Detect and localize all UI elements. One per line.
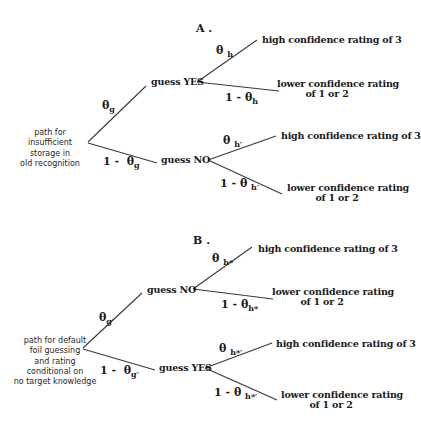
b-prob-theta-g-prime: θg′ xyxy=(99,311,114,326)
panel-b-root-label: path for default foil guessing and ratin… xyxy=(12,336,98,387)
a-node-guess-yes: guess YES xyxy=(151,76,204,87)
a-prob-theta-h-prime: θ h′ xyxy=(223,134,242,149)
root-label-line: no target knowledge xyxy=(12,377,98,387)
outcome-label-line: of 1 or 2 xyxy=(281,400,381,410)
root-label-line: conditional on xyxy=(12,367,98,377)
root-label-line: storage in xyxy=(14,149,86,159)
root-label-line: old recognition xyxy=(14,159,86,169)
a-root-to-yes-line xyxy=(88,86,146,142)
root-label-line: and rating xyxy=(12,357,98,367)
root-label-line: foil guessing xyxy=(12,346,98,356)
panel-b-title: B . xyxy=(193,234,210,247)
b-prob-one-minus-theta-g-prime: 1 - θg′ xyxy=(100,364,139,379)
a-node-guess-no: guess NO xyxy=(161,154,210,165)
root-label-line: path for xyxy=(14,128,86,138)
b-no-outcome-low: lower confidence rating of 1 or 2 xyxy=(272,287,372,307)
b-yes-outcome-high: high confidence rating of 3 xyxy=(276,338,416,349)
a-prob-theta-h: θ h xyxy=(216,44,233,59)
b-no-outcome-high: high confidence rating of 3 xyxy=(258,243,398,254)
a-no-outcome-low: lower confidence rating of 1 or 2 xyxy=(287,183,387,203)
a-prob-one-minus-theta-h: 1 - θh xyxy=(225,91,258,106)
b-yes-outcome-low: lower confidence rating of 1 or 2 xyxy=(281,390,381,410)
b-prob-theta-h-star: θ h* xyxy=(212,252,233,267)
a-prob-one-minus-theta-g: 1 - θg xyxy=(103,155,140,170)
outcome-label-line: of 1 or 2 xyxy=(272,297,372,307)
b-prob-theta-h-star-prime: θ h*′ xyxy=(219,342,242,357)
root-label-line: insufficient xyxy=(14,138,86,148)
b-prob-one-minus-theta-h-star: 1 - θh* xyxy=(221,298,258,313)
panel-a-title: A . xyxy=(196,22,212,35)
outcome-label-line: of 1 or 2 xyxy=(277,89,377,99)
a-yes-to-low-line xyxy=(197,82,279,91)
a-yes-outcome-high: high confidence rating of 3 xyxy=(262,34,402,45)
root-label-line: path for default xyxy=(12,336,98,346)
a-prob-theta-g: θg xyxy=(102,99,115,114)
a-yes-outcome-low: lower confidence rating of 1 or 2 xyxy=(277,79,377,99)
b-node-guess-yes: guess YES xyxy=(159,362,212,373)
b-node-guess-no: guess NO xyxy=(147,284,196,295)
b-prob-one-minus-theta-h-star-prime: 1 - θ h*′ xyxy=(214,386,257,401)
a-prob-one-minus-theta-h-prime: 1 - θ h′ xyxy=(220,177,259,192)
panel-a-root-label: path for insufficient storage in old rec… xyxy=(14,128,86,169)
a-no-outcome-high: high confidence rating of 3 xyxy=(281,130,421,141)
outcome-label-line: of 1 or 2 xyxy=(287,193,387,203)
